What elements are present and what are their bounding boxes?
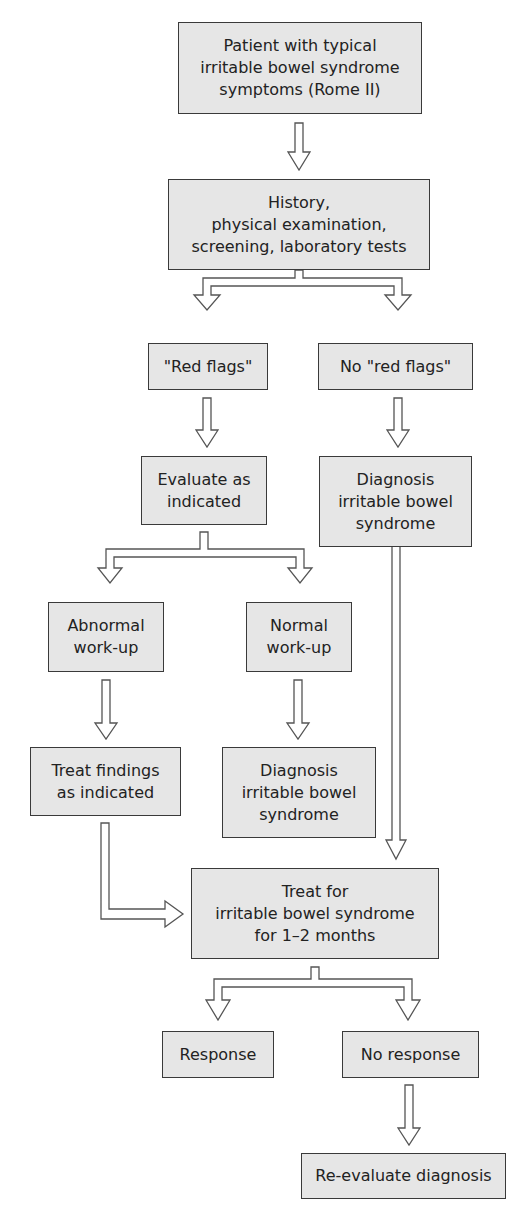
arrow-redflags-to-evaluate xyxy=(196,398,218,447)
node-red-flags: "Red flags" xyxy=(148,343,268,390)
arrow-treatibs-split xyxy=(206,967,420,1020)
node-treat-ibs: Treat for irritable bowel syndrome for 1… xyxy=(191,868,439,959)
node-normal-workup: Normal work-up xyxy=(246,602,352,672)
arrow-history-split xyxy=(194,270,411,310)
node-evaluate: Evaluate as indicated xyxy=(141,456,267,525)
arrow-evaluate-split xyxy=(98,532,312,583)
arrow-start-to-history xyxy=(288,123,310,170)
node-abnormal-workup: Abnormal work-up xyxy=(48,602,164,672)
arrow-noresponse-to-reevaluate xyxy=(398,1085,420,1145)
arrow-noredflags-to-diagnosis xyxy=(387,398,409,447)
node-history: History, physical examination, screening… xyxy=(168,179,430,270)
node-start: Patient with typical irritable bowel syn… xyxy=(178,22,422,114)
node-treat-findings: Treat findings as indicated xyxy=(30,747,181,816)
arrow-diagnosis-to-treatibs xyxy=(386,515,406,859)
node-no-red-flags: No "red flags" xyxy=(318,343,473,390)
node-no-response: No response xyxy=(342,1031,479,1078)
arrow-normal-to-diagnosis xyxy=(287,680,309,739)
node-reevaluate: Re-evaluate diagnosis xyxy=(301,1153,506,1199)
arrow-treatfindings-to-treatibs xyxy=(101,823,183,927)
node-diagnosis-ibs-2: Diagnosis irritable bowel syndrome xyxy=(222,747,376,838)
node-diagnosis-ibs-1: Diagnosis irritable bowel syndrome xyxy=(319,456,472,547)
node-response: Response xyxy=(162,1031,274,1078)
arrow-abnormal-to-treatfindings xyxy=(95,680,117,739)
